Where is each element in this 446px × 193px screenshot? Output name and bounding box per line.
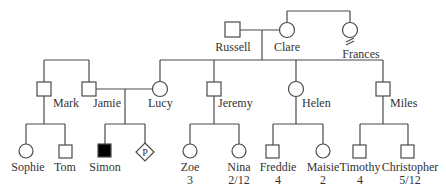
nina-female-symbol	[232, 144, 246, 158]
timothy-label: Timothy	[340, 160, 381, 174]
frances-female-symbol	[343, 23, 358, 38]
freddie-age: 4	[260, 174, 297, 187]
timothy-male-symbol	[353, 145, 366, 158]
pregnancy-p-label: P	[142, 147, 148, 158]
zoe-label: Zoe	[181, 160, 200, 174]
russell-male-symbol	[225, 22, 240, 37]
christopher-male-symbol	[401, 145, 414, 158]
russell-label: Russell	[215, 41, 250, 54]
jamie-label: Jamie	[93, 97, 121, 110]
miles-male-symbol	[376, 82, 390, 96]
miles-label: Miles	[390, 97, 417, 110]
helen-label: Helen	[302, 97, 331, 110]
lucy-female-symbol	[153, 82, 168, 97]
simon-label: Simon	[89, 161, 120, 174]
jamie-male-symbol	[82, 82, 96, 96]
lucy-label: Lucy	[148, 97, 173, 110]
clare-label: Clare	[274, 41, 300, 54]
nina-age: 2/12	[227, 174, 250, 187]
sophie-label: Sophie	[11, 161, 44, 174]
clare-female-symbol	[280, 23, 295, 38]
mark-label: Mark	[53, 97, 79, 110]
maisie-female-symbol	[316, 144, 330, 158]
nina-label: Nina	[227, 160, 250, 174]
christopher-label-group: Christopher 5/12	[382, 161, 439, 187]
tom-male-symbol	[59, 145, 72, 158]
christopher-age: 5/12	[382, 174, 439, 187]
zoe-label-group: Zoe 3	[181, 161, 200, 187]
freddie-label-group: Freddie 4	[260, 161, 297, 187]
maisie-label-group: Maisie 2	[307, 161, 340, 187]
tom-label: Tom	[54, 161, 76, 174]
zoe-female-symbol	[183, 144, 197, 158]
timothy-label-group: Timothy 4	[340, 161, 381, 187]
jeremy-male-symbol	[207, 82, 221, 96]
maisie-age: 2	[307, 174, 340, 187]
helen-female-symbol	[289, 82, 304, 97]
maisie-label: Maisie	[307, 160, 340, 174]
nina-label-group: Nina 2/12	[227, 161, 250, 187]
sophie-female-symbol	[19, 144, 33, 158]
frances-label: Frances	[342, 48, 379, 61]
zoe-age: 3	[181, 174, 200, 187]
freddie-label: Freddie	[260, 160, 297, 174]
mark-male-symbol	[37, 82, 51, 96]
timothy-age: 4	[340, 174, 381, 187]
christopher-label: Christopher	[382, 160, 439, 174]
jeremy-label: Jeremy	[218, 97, 253, 110]
freddie-male-symbol	[266, 145, 279, 158]
simon-affected-male-symbol	[98, 144, 111, 157]
